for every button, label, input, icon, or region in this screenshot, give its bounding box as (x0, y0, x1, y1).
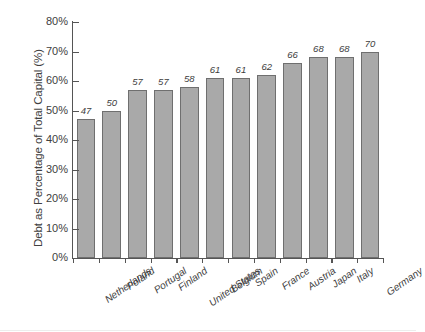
bar[interactable] (154, 90, 173, 258)
x-axis-category-label: Germany (385, 265, 425, 298)
y-axis-tick-mark (73, 199, 79, 200)
y-axis-tick-label: 40% (32, 134, 68, 145)
y-axis-tick-mark (73, 111, 79, 112)
x-axis-tick-mark (73, 258, 74, 263)
bar-value-label: 62 (251, 62, 282, 72)
x-axis-tick-mark (357, 258, 358, 263)
x-axis-tick-mark (306, 258, 307, 263)
image-bottom-edge (0, 330, 416, 331)
plot-area: 475057575861616266686870 (73, 22, 383, 258)
y-axis-tick-labels: 80%70%60%50%40%30%20%10%0% (28, 0, 68, 332)
y-axis-tick-mark (73, 140, 79, 141)
bar[interactable] (102, 111, 121, 259)
x-axis-tick-mark (125, 258, 126, 263)
x-axis-tick-mark (280, 258, 281, 263)
x-axis-tick-mark (331, 258, 332, 263)
bar[interactable] (361, 52, 380, 259)
x-axis-tick-mark (254, 258, 255, 263)
x-axis-category-label: France (279, 265, 311, 292)
y-axis-tick-mark (73, 52, 79, 53)
y-axis-tick-label: 30% (32, 164, 68, 175)
bar[interactable] (283, 63, 302, 258)
y-axis-tick-label: 60% (32, 75, 68, 86)
bar-value-label: 58 (174, 74, 205, 84)
x-axis-tick-mark (383, 258, 384, 263)
y-axis-tick-label: 0% (32, 252, 68, 263)
x-axis-tick-mark (99, 258, 100, 263)
bar[interactable] (232, 78, 251, 258)
bar[interactable] (335, 57, 354, 258)
x-axis-tick-mark (228, 258, 229, 263)
y-axis-tick-label: 10% (32, 223, 68, 234)
y-axis-tick-mark (73, 170, 79, 171)
bar-value-label: 50 (96, 98, 127, 108)
x-axis-category-label: Italy (355, 265, 376, 285)
y-axis-tick-label: 80% (32, 16, 68, 27)
bar[interactable] (257, 75, 276, 258)
y-axis-tick-mark (73, 81, 79, 82)
y-axis-tick-label: 20% (32, 193, 68, 204)
y-axis-tick-mark (73, 22, 79, 23)
x-axis-tick-mark (176, 258, 177, 263)
bar[interactable] (77, 119, 96, 258)
bar[interactable] (206, 78, 225, 258)
y-axis-tick-mark (73, 229, 79, 230)
x-axis-tick-mark (151, 258, 152, 263)
y-axis-tick-label: 50% (32, 105, 68, 116)
bar-value-label: 70 (355, 39, 386, 49)
y-axis-tick-label: 70% (32, 46, 68, 57)
bar[interactable] (309, 57, 328, 258)
x-axis-tick-mark (202, 258, 203, 263)
bar[interactable] (180, 87, 199, 258)
bar[interactable] (128, 90, 147, 258)
